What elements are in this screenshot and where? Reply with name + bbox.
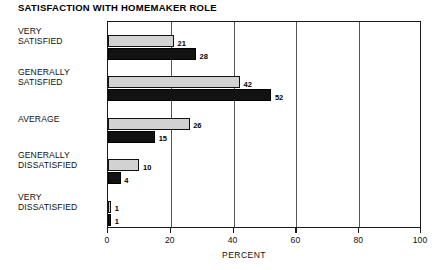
tick-mark-100	[420, 228, 421, 233]
bar-light-average	[108, 118, 190, 130]
category-label-generally-satisfied: GENERALLY SATISFIED	[18, 67, 104, 88]
plot-area: 21 28 42 52 26 15 10 4 1 1	[107, 21, 421, 228]
category-label-very-satisfied: VERY SATISFIED	[18, 26, 104, 47]
bar-group-very-dissatisfied: 1 1	[108, 195, 420, 236]
x-axis-title-wrapper: PERCENT	[0, 250, 438, 260]
category-label-line1: GENERALLY	[18, 150, 70, 160]
bar-value-light: 1	[115, 205, 119, 213]
x-axis-title: PERCENT	[222, 250, 266, 260]
bar-dark-generally-dissatisfied	[108, 172, 121, 184]
bar-light-generally-satisfied	[108, 76, 240, 88]
category-label-generally-dissatisfied: GENERALLY DISSATISFIED	[18, 150, 104, 171]
tick-label-60: 60	[291, 235, 301, 245]
category-label-line2: DISSATISFIED	[18, 160, 104, 170]
bar-chart: SATISFACTION WITH HOMEMAKER ROLE VERY SA…	[0, 0, 438, 270]
tick-mark-20	[170, 228, 171, 233]
bar-dark-average	[108, 131, 155, 143]
bar-value-dark: 1	[115, 218, 119, 226]
chart-title: SATISFACTION WITH HOMEMAKER ROLE	[18, 2, 217, 13]
bar-group-generally-dissatisfied: 10 4	[108, 153, 420, 194]
category-label-line1: VERY	[18, 192, 42, 202]
bar-value-light: 42	[244, 81, 252, 89]
category-label-average: AVERAGE	[18, 114, 104, 124]
bar-value-dark: 52	[275, 94, 283, 102]
bar-dark-very-dissatisfied	[108, 214, 111, 226]
bar-value-dark: 28	[200, 53, 208, 61]
category-label-line2: DISSATISFIED	[18, 202, 104, 212]
bar-value-light: 21	[178, 40, 186, 48]
category-label-line2: SATISFIED	[18, 36, 104, 46]
bar-group-very-satisfied: 21 28	[108, 29, 420, 70]
bar-light-very-satisfied	[108, 35, 174, 47]
category-label-line1: AVERAGE	[18, 114, 60, 124]
category-label-line1: VERY	[18, 26, 42, 36]
tick-mark-40	[233, 228, 234, 233]
tick-label-80: 80	[353, 235, 363, 245]
tick-mark-60	[295, 228, 296, 233]
bar-dark-generally-satisfied	[108, 89, 271, 101]
tick-label-0: 0	[105, 235, 110, 245]
tick-label-40: 40	[228, 235, 238, 245]
bar-light-very-dissatisfied	[108, 201, 111, 213]
category-label-very-dissatisfied: VERY DISSATISFIED	[18, 192, 104, 213]
bar-dark-very-satisfied	[108, 48, 196, 60]
bar-value-dark: 15	[159, 135, 167, 143]
bar-light-generally-dissatisfied	[108, 159, 139, 171]
bar-value-light: 26	[193, 122, 201, 130]
tick-label-20: 20	[165, 235, 175, 245]
bar-value-dark: 4	[124, 177, 128, 185]
bar-value-light: 10	[143, 164, 151, 172]
category-label-line1: GENERALLY	[18, 67, 70, 77]
tick-mark-80	[358, 228, 359, 233]
tick-label-100: 100	[413, 235, 427, 245]
category-label-line2: SATISFIED	[18, 77, 104, 87]
bar-group-generally-satisfied: 42 52	[108, 70, 420, 111]
tick-mark-0	[107, 228, 108, 233]
bar-group-average: 26 15	[108, 112, 420, 153]
